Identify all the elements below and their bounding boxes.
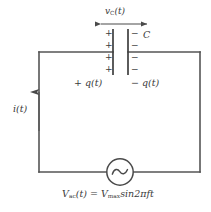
circuit-diagram: vC(t) C + + + + − − − − + q(t) − q(t) i(… [0, 0, 211, 212]
capacitor-symbol [113, 29, 128, 75]
plate-sign-minus-1: − [131, 29, 139, 38]
plate-sign-minus-3: − [131, 53, 139, 62]
plate-sign-plus-2: + [105, 41, 113, 50]
current-label: i(t) [13, 104, 27, 114]
capacitor-label: C [143, 30, 150, 40]
circuit-wires [39, 52, 200, 172]
negative-charge-label: − q(t) [131, 78, 159, 88]
source-equation-label: Vac(t) = Vmaxsin2πft [62, 189, 154, 200]
plate-sign-plus-4: + [105, 65, 113, 74]
capacitor-voltage-label: vC(t) [105, 7, 125, 17]
plate-sign-plus-1: + [105, 29, 113, 38]
plate-sign-plus-3: + [105, 53, 113, 62]
plate-sign-minus-4: − [131, 65, 139, 74]
plate-sign-minus-2: − [131, 41, 139, 50]
ac-source-symbol [107, 159, 133, 185]
positive-charge-label: + q(t) [74, 78, 102, 88]
